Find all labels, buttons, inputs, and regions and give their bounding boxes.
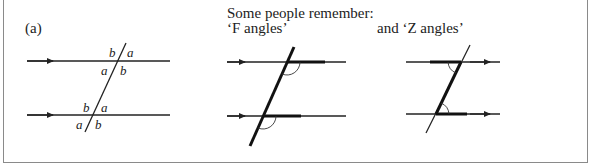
bold-transversal-segment <box>436 62 461 114</box>
angle-label: a <box>76 117 83 132</box>
angle-label: b <box>120 63 127 78</box>
f-angles-diagram <box>227 47 346 146</box>
angle-label: a <box>101 100 108 115</box>
z-angles-diagram <box>406 45 500 133</box>
angle-label: b <box>95 117 102 132</box>
panel-a-diagram: b a a b b a a b <box>27 43 170 132</box>
diagram-canvas: b a a b b a a b <box>0 0 594 166</box>
angle-arc <box>448 62 456 73</box>
angle-arc <box>441 103 449 114</box>
angle-label: b <box>83 100 90 115</box>
angle-label: b <box>109 45 116 60</box>
angle-label: a <box>101 63 108 78</box>
angle-label: a <box>127 45 134 60</box>
transversal-line <box>85 43 126 132</box>
